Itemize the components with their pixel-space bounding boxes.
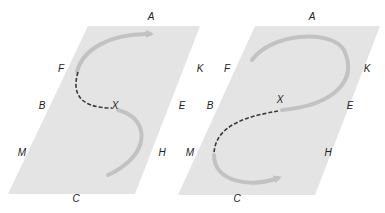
right-label-b: B — [207, 101, 214, 111]
left-label-c: C — [72, 194, 79, 204]
right-label-f: F — [224, 64, 230, 74]
right-label-a: A — [309, 12, 316, 22]
right-label-e: E — [347, 101, 354, 111]
right-label-k: K — [364, 64, 371, 74]
right-label-c: C — [233, 194, 240, 204]
left-label-f: F — [58, 64, 64, 74]
left-label-k: K — [197, 64, 204, 74]
left-label-h: H — [158, 148, 165, 158]
left-label-m: M — [18, 148, 26, 158]
right-label-h: H — [324, 148, 331, 158]
right-label-m: M — [186, 148, 194, 158]
left-label-x: X — [112, 101, 119, 111]
diagram-canvas — [0, 0, 385, 213]
left-label-a: A — [148, 12, 155, 22]
right-label-x: X — [277, 95, 284, 105]
left-label-b: B — [39, 101, 46, 111]
left-plane — [8, 26, 200, 194]
left-label-e: E — [179, 101, 186, 111]
